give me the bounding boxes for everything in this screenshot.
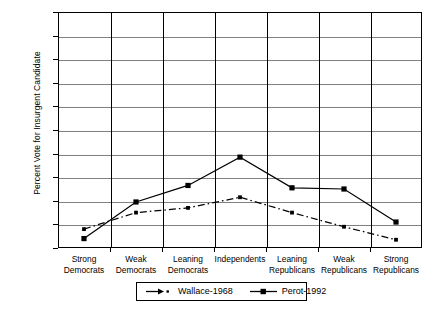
- data-series-layer: [58, 12, 422, 248]
- legend-label-wallace: Wallace-1968: [178, 287, 233, 296]
- x-label-line: Democrats: [116, 265, 157, 276]
- solid-line-marker-icon: [250, 286, 277, 297]
- data-point-marker: [289, 185, 294, 190]
- x-axis-category-label: LeaningDemocrats: [168, 254, 209, 276]
- x-axis-category-label: WeakRepublicans: [321, 254, 367, 276]
- x-tick-mark: [110, 248, 111, 252]
- x-label-line: Republicans: [373, 265, 419, 276]
- chart-container: Percent Vote for Insurgent Candidate 010…: [0, 0, 435, 311]
- data-point-marker: [393, 219, 398, 224]
- data-point-marker: [185, 183, 190, 188]
- legend-item-perot: Perot-1992: [250, 286, 327, 297]
- x-tick-mark: [162, 248, 163, 252]
- legend-label-perot: Perot-1992: [282, 287, 327, 296]
- data-point-marker: [237, 155, 242, 160]
- x-axis-category-label: StrongRepublicans: [373, 254, 419, 276]
- data-point-marker: [81, 236, 86, 241]
- x-tick-mark: [370, 248, 371, 252]
- data-point-marker: [341, 186, 346, 191]
- y-tick-mark: [53, 248, 58, 249]
- data-point-marker: [238, 195, 242, 199]
- x-label-line: Republicans: [269, 265, 315, 276]
- x-label-line: Weak: [321, 254, 367, 265]
- data-point-marker: [290, 211, 294, 215]
- data-point-marker: [394, 238, 398, 242]
- x-label-line: Democrats: [168, 265, 209, 276]
- x-axis-category-label: Independents: [215, 254, 266, 265]
- x-axis-category-label: StrongDemocrats: [64, 254, 105, 276]
- x-axis-category-label: LeaningRepublicans: [269, 254, 315, 276]
- series-line-wallace-1968: [84, 197, 396, 239]
- x-tick-mark: [318, 248, 319, 252]
- x-label-line: Weak: [116, 254, 157, 265]
- dash-dot-line-marker-icon: [146, 286, 173, 297]
- x-label-line: Leaning: [168, 254, 209, 265]
- x-label-line: Strong: [373, 254, 419, 265]
- y-axis-title: Percent Vote for Insurgent Candidate: [32, 28, 42, 218]
- x-tick-mark: [214, 248, 215, 252]
- chart-legend: Wallace-1968 Perot-1992: [136, 282, 307, 301]
- data-point-marker: [186, 206, 190, 210]
- x-label-line: Republicans: [321, 265, 367, 276]
- x-label-line: Strong: [64, 254, 105, 265]
- data-point-marker: [82, 227, 86, 231]
- x-axis-category-label: WeakDemocrats: [116, 254, 157, 276]
- x-label-line: Leaning: [269, 254, 315, 265]
- x-tick-mark: [266, 248, 267, 252]
- x-label-line: Independents: [215, 254, 266, 265]
- data-point-marker: [134, 211, 138, 215]
- legend-item-wallace: Wallace-1968: [146, 286, 233, 297]
- data-point-marker: [342, 225, 346, 229]
- data-point-marker: [133, 199, 138, 204]
- x-label-line: Democrats: [64, 265, 105, 276]
- x-axis-labels: StrongDemocratsWeakDemocratsLeaningDemoc…: [58, 254, 422, 280]
